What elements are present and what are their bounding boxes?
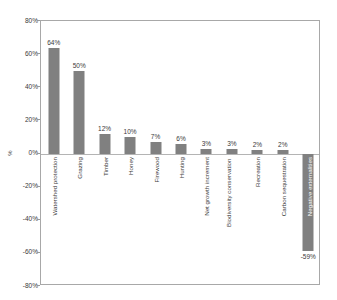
y-axis-tick-mark	[37, 53, 40, 54]
bar[interactable]	[175, 144, 186, 154]
y-axis-tick-mark	[37, 153, 40, 154]
bar[interactable]	[252, 150, 263, 153]
bar-value-label: 2%	[253, 141, 262, 149]
bar-chart: % 80%60%40%20%0%-20%-40%-60%-80% 64%Wate…	[0, 0, 337, 300]
category-label: Net growth increment	[203, 157, 210, 216]
category-label: Biodiversity conservation	[225, 157, 232, 227]
category-label: Carbon sequestration	[280, 157, 287, 216]
category-label: Firewood	[153, 157, 160, 182]
bar[interactable]	[277, 150, 288, 153]
bar-value-label: 50%	[73, 62, 86, 70]
bar-group: 2%Carbon sequestration	[270, 21, 295, 284]
bar-value-label: 2%	[278, 141, 287, 149]
y-axis-tick-labels: 80%60%40%20%0%-20%-40%-60%-80%	[0, 0, 38, 300]
bar-group: 12%Timber	[92, 21, 117, 284]
bar-value-label: 7%	[151, 133, 160, 141]
bar-group: 50%Grazing	[66, 21, 91, 284]
y-axis-tick-label: 0%	[2, 149, 38, 156]
y-axis-tick-label: 60%	[2, 50, 38, 57]
bar[interactable]	[74, 71, 85, 154]
bar-value-label: 3%	[202, 140, 211, 148]
y-axis-tick-mark	[37, 86, 40, 87]
bar-group: 6%Hunting	[168, 21, 193, 284]
category-label: Grazing	[76, 157, 83, 179]
category-label: Timber	[102, 157, 109, 176]
y-axis-tick-mark	[37, 186, 40, 187]
bar[interactable]	[150, 142, 161, 154]
bar[interactable]	[125, 137, 136, 154]
bar-group: -59%Negative externalities	[296, 21, 321, 284]
bar-value-label: -59%	[301, 253, 316, 261]
bar-group: 64%Watershed protection	[41, 21, 66, 284]
bar-value-label: 64%	[47, 39, 60, 47]
category-label: Negative externalities	[306, 157, 313, 216]
y-axis-tick-label: -20%	[2, 182, 38, 189]
category-label: Honey	[127, 157, 134, 175]
y-axis-tick-label: -60%	[2, 248, 38, 255]
bar-group: 7%Firewood	[143, 21, 168, 284]
y-axis-tick-label: 20%	[2, 116, 38, 123]
y-axis-tick-label: 40%	[2, 83, 38, 90]
plot-area: 64%Watershed protection50%Grazing12%Timb…	[40, 20, 320, 285]
bar[interactable]	[99, 134, 110, 154]
category-label: Hunting	[178, 157, 185, 178]
category-label: Watershed protection	[51, 157, 58, 216]
bar-group: 10%Honey	[117, 21, 142, 284]
bar[interactable]	[201, 149, 212, 154]
bar-group: 3%Net growth increment	[194, 21, 219, 284]
y-axis-tick-mark	[37, 119, 40, 120]
y-axis-tick-label: -80%	[2, 282, 38, 289]
y-axis-tick-mark	[37, 20, 40, 21]
y-axis-tick-mark	[37, 252, 40, 253]
bar-value-label: 3%	[227, 140, 236, 148]
y-axis-tick-label: 80%	[2, 17, 38, 24]
bar-group: 3%Biodiversity conservation	[219, 21, 244, 284]
bar-value-label: 10%	[124, 128, 137, 136]
category-label: Recreation	[254, 157, 261, 187]
bar-value-label: 6%	[176, 135, 185, 143]
y-axis-tick-mark	[37, 285, 40, 286]
y-axis-tick-label: -40%	[2, 215, 38, 222]
bar-value-label: 12%	[98, 125, 111, 133]
bar[interactable]	[226, 149, 237, 154]
bar-group: 2%Recreation	[245, 21, 270, 284]
y-axis-tick-mark	[37, 219, 40, 220]
bar[interactable]	[48, 48, 59, 154]
